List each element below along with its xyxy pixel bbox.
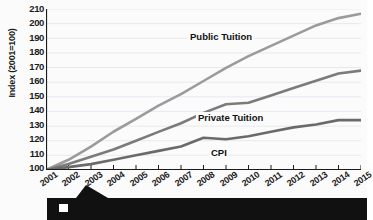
banner-arrow-notch (76, 185, 108, 198)
x-tick-label: 2010 (240, 169, 261, 188)
y-tick-label: 200 (14, 18, 44, 27)
series-label-cpi: CPI (209, 147, 229, 158)
series-label-private-tuition: Private Tuition (196, 112, 265, 123)
y-tick-label: 210 (14, 4, 44, 13)
x-tick-label: 2011 (263, 170, 284, 189)
y-tick-label: 110 (14, 149, 44, 158)
x-tick-label: 2009 (218, 169, 239, 188)
x-tick-label: 2012 (285, 169, 306, 188)
x-tick-label: 2015 (352, 169, 373, 188)
x-tick-label: 2006 (150, 169, 171, 188)
plot-area: Public Tuition Private Tuition CPI (46, 9, 361, 170)
y-tick-label: 130 (14, 120, 44, 129)
x-tick-label: 2014 (330, 169, 351, 188)
series-label-public-tuition: Public Tuition (188, 31, 254, 42)
banner-marker-icon (59, 204, 68, 212)
y-tick-label: 120 (14, 134, 44, 143)
x-tick-label: 2004 (105, 169, 126, 188)
y-axis-tick-labels: 210 200 190 180 170 160 150 140 130 120 … (10, 0, 44, 180)
y-tick-label: 140 (14, 105, 44, 114)
y-tick-label: 160 (14, 76, 44, 85)
x-tick-label: 2005 (128, 169, 149, 188)
y-tick-label: 170 (14, 62, 44, 71)
y-tick-label: 150 (14, 91, 44, 100)
y-tick-label: 190 (14, 33, 44, 42)
bottom-banner (47, 198, 367, 220)
x-tick-label: 2007 (173, 169, 194, 188)
x-tick-label: 2013 (308, 169, 329, 188)
y-tick-label: 180 (14, 47, 44, 56)
x-tick-label: 2008 (195, 169, 216, 188)
y-tick-label: 100 (14, 163, 44, 172)
